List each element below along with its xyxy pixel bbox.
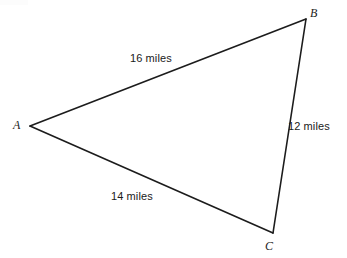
vertex-label-a: A [13, 119, 20, 131]
side-length-label-ab: 16 miles [130, 52, 172, 64]
side-AB-line [30, 19, 306, 126]
triangle-diagram: A B C 16 miles 12 miles 14 miles [0, 0, 347, 258]
vertex-label-c: C [265, 240, 273, 252]
vertex-label-b: B [310, 7, 317, 19]
side-length-label-bc: 12 miles [288, 120, 330, 132]
side-length-label-ac: 14 miles [111, 190, 153, 202]
side-AC-line [30, 126, 273, 233]
